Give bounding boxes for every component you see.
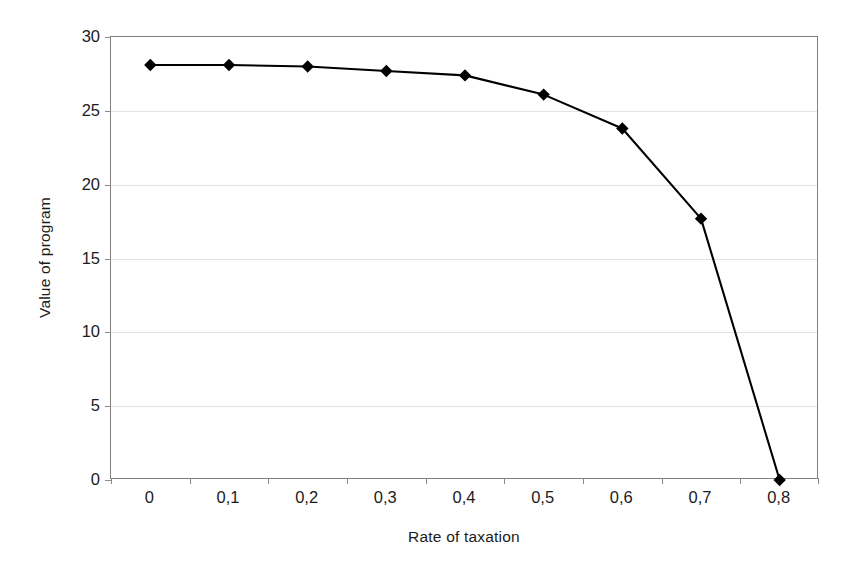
x-axis-tick-label: 0,3 xyxy=(374,489,397,506)
chart-screenshot: Value of program 051015202530 00,10,20,3… xyxy=(0,0,860,577)
y-axis-tick-label: 25 xyxy=(58,102,100,119)
x-axis-tick-label: 0,8 xyxy=(767,489,790,506)
x-axis-title: Rate of taxation xyxy=(110,528,818,546)
data-point-marker xyxy=(380,65,392,77)
x-axis-tick-label: 0,2 xyxy=(295,489,318,506)
data-point-marker xyxy=(773,474,785,486)
y-axis-tick-label: 5 xyxy=(58,397,100,414)
x-axis-tick-label: 0,5 xyxy=(531,489,554,506)
x-axis-tick-label: 0,1 xyxy=(217,489,240,506)
data-point-marker xyxy=(301,60,313,72)
data-point-marker xyxy=(223,59,235,71)
y-axis-tick-label: 20 xyxy=(58,175,100,192)
data-point-marker xyxy=(144,59,156,71)
y-axis-tick-label: 0 xyxy=(58,471,100,488)
series-polyline xyxy=(150,65,779,480)
data-point-marker xyxy=(459,69,471,81)
x-axis-tick-label: 0,6 xyxy=(610,489,633,506)
y-axis-tick-labels: 051015202530 xyxy=(48,0,100,577)
x-axis-tick-labels: 00,10,20,30,40,50,60,70,8 xyxy=(110,489,818,513)
data-point-marker xyxy=(537,88,549,100)
y-axis-tick-label: 30 xyxy=(58,28,100,45)
series-line-value-of-program xyxy=(111,37,819,480)
x-axis-tick-label: 0,7 xyxy=(689,489,712,506)
plot-area xyxy=(110,36,818,479)
y-axis-tick-label: 10 xyxy=(58,323,100,340)
y-axis-tick-label: 15 xyxy=(58,249,100,266)
x-axis-tick-label: 0,4 xyxy=(453,489,476,506)
x-axis-tick-label: 0 xyxy=(145,489,154,506)
